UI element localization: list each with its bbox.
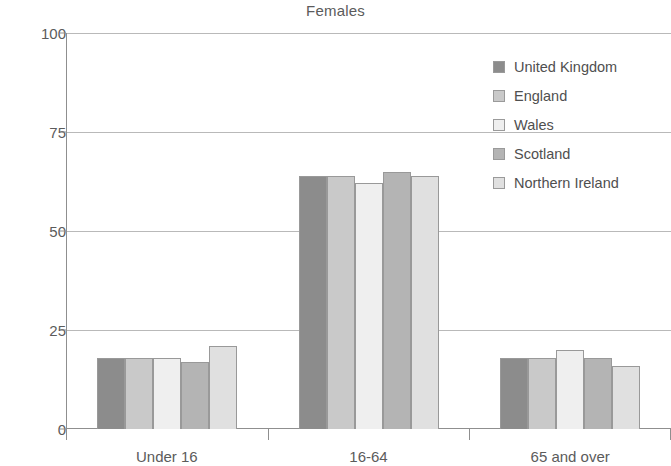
y-tick-label: 50 [18,223,66,240]
bar [383,172,411,429]
legend-item[interactable]: England [493,81,619,110]
legend-label: Scotland [514,146,570,162]
chart-title: Females [0,2,671,19]
x-axis: Under 1616-6465 and over [66,429,671,466]
y-axis: 0255075100 [0,0,66,466]
bar [299,176,327,429]
bar [209,346,237,429]
bar [500,358,528,429]
legend-item[interactable]: United Kingdom [493,52,619,81]
legend-label: England [514,88,567,104]
legend-swatch-icon [493,61,505,73]
legend-swatch-icon [493,148,505,160]
bar [97,358,125,429]
bar-chart: Females 0255075100 Under 1616-6465 and o… [0,0,671,466]
legend-label: Wales [514,117,554,133]
legend-item[interactable]: Wales [493,110,619,139]
y-tick-label: 25 [18,322,66,339]
chart-legend: United KingdomEnglandWalesScotlandNorthe… [493,52,619,197]
y-tick-label: 0 [18,421,66,438]
bar [556,350,584,429]
legend-label: Northern Ireland [514,175,619,191]
x-tick-label: Under 16 [136,448,198,465]
bar [528,358,556,429]
x-tick-group: 16-64 [268,429,470,466]
legend-swatch-icon [493,90,505,102]
x-tick-label: 65 and over [531,448,610,465]
bar [411,176,439,429]
bar [327,176,355,429]
bar [181,362,209,429]
x-tick-mark [66,429,67,440]
x-tick-label: 16-64 [349,448,387,465]
bar [612,366,640,429]
legend-item[interactable]: Scotland [493,139,619,168]
legend-swatch-icon [493,119,505,131]
bar-group [268,33,470,429]
legend-item[interactable]: Northern Ireland [493,168,619,197]
y-tick-label: 75 [18,124,66,141]
bar [125,358,153,429]
bar-group [66,33,268,429]
bar [355,183,383,429]
x-tick-group: 65 and over [469,429,671,466]
bar [584,358,612,429]
x-tick-mark [268,429,269,440]
x-tick-group: Under 16 [66,429,268,466]
legend-label: United Kingdom [514,59,617,75]
legend-swatch-icon [493,177,505,189]
bar [153,358,181,429]
y-tick-label: 100 [18,25,66,42]
x-tick-mark [469,429,470,440]
